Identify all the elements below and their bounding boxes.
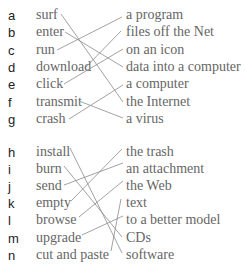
connector-line	[86, 31, 121, 67]
connector-line	[64, 166, 122, 237]
connector-line	[70, 148, 122, 253]
connector-line	[61, 14, 123, 102]
connector-line	[71, 149, 122, 201]
connector-line	[64, 49, 123, 84]
connector-lines	[0, 0, 245, 268]
connector-line	[69, 85, 123, 119]
connector-line	[65, 32, 123, 67]
connector-line	[64, 163, 123, 185]
connector-line	[79, 101, 123, 118]
